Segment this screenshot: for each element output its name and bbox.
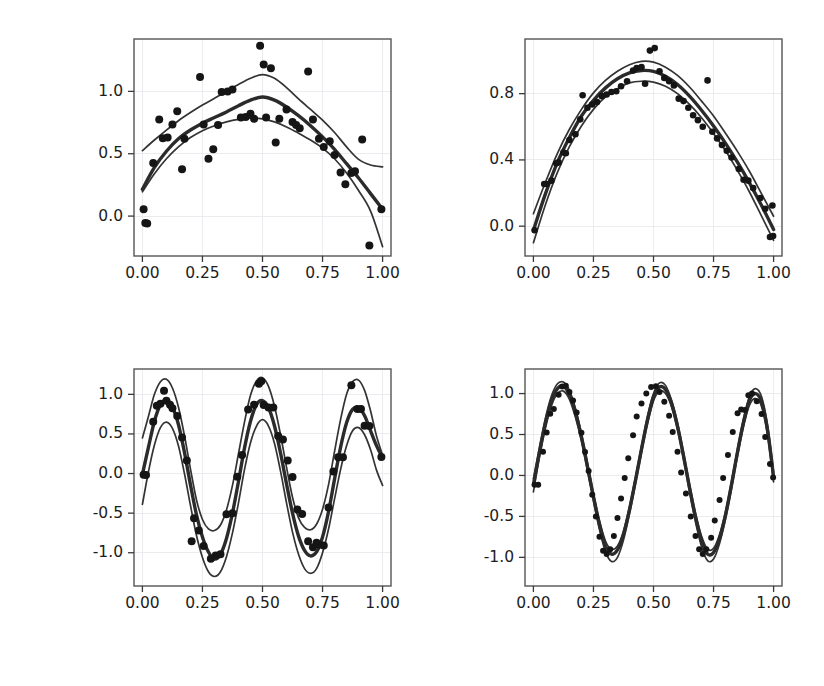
data-point [284,456,292,464]
x-tick-label: 0.50 [636,594,671,612]
data-point [551,406,557,412]
data-point [351,167,359,175]
x-tick-label: 0.75 [696,594,731,612]
data-point [228,86,236,94]
data-point [728,154,735,161]
x-tick-label: 0.75 [305,594,340,612]
data-point [572,131,579,138]
data-point [566,389,572,395]
data-point [770,475,776,481]
plot-frame [134,39,391,256]
data-point [160,387,168,395]
data-point [688,513,694,519]
data-point [596,534,602,540]
data-point [693,533,699,539]
y-tick-label: -1.0 [93,543,123,561]
data-point [708,535,714,541]
data-point [200,120,208,128]
data-point [759,411,765,417]
data-point [298,510,306,518]
data-point [653,383,659,389]
data-point [272,139,280,147]
data-point [638,400,644,406]
data-point [754,398,760,404]
data-point [357,405,365,413]
data-point [209,145,217,153]
data-point [548,177,555,184]
data-point [675,449,681,455]
data-point [326,137,334,145]
data-point [269,403,277,411]
data-point [214,121,222,129]
data-point [735,166,742,173]
x-tick-label: 0.75 [696,264,731,282]
data-point [695,117,702,124]
y-tick-label: 1.0 [489,384,514,402]
data-point [700,551,706,557]
data-point [725,452,731,458]
data-point [556,392,562,398]
x-tick-label: 0.00 [125,594,160,612]
y-tick-label: 0.4 [489,150,514,168]
data-point [577,116,584,123]
data-point [173,412,181,420]
data-point [714,135,721,142]
chart-panel-bottom-left: 0.000.250.500.751.00-1.0-0.50.00.51.0 [76,363,397,622]
data-point [155,115,163,123]
data-point [757,195,764,202]
data-point [196,73,204,81]
regression-panels-figure: 0.000.250.500.751.000.00.51.00.000.250.5… [0,0,824,686]
data-point [618,495,624,501]
x-tick-label: 0.00 [516,594,551,612]
x-tick-label: 0.00 [125,264,160,282]
data-point [704,77,711,84]
data-point [651,45,658,52]
data-point [320,143,328,151]
data-point [750,185,757,192]
data-point [365,241,373,249]
data-point [140,205,148,213]
y-tick-label: 0.8 [489,84,514,102]
x-tick-label: 0.50 [245,264,280,282]
data-point [604,551,610,557]
data-point [149,418,157,426]
y-tick-label: 0.5 [98,144,123,162]
y-tick-label: 0.0 [489,217,514,235]
x-tick-label: 0.00 [516,264,551,282]
data-point [683,490,689,496]
data-point [257,377,265,385]
data-point [709,128,716,135]
data-point [262,114,270,122]
data-point [762,434,768,440]
data-point [250,115,258,123]
x-tick-label: 0.25 [576,264,611,282]
data-point [142,471,150,479]
data-point [238,451,246,459]
data-point [643,391,649,397]
chart-panel-top-right: 0.000.250.500.751.000.00.40.8 [467,33,788,292]
data-point [195,527,203,535]
data-point [723,148,730,155]
data-point [339,453,347,461]
data-point [164,134,172,142]
data-point [670,429,676,435]
data-point [377,453,385,461]
data-point [578,430,584,436]
data-point [570,398,576,404]
data-point [180,135,188,143]
x-tick-label: 0.50 [636,264,671,282]
data-point [671,82,678,89]
data-point [611,533,617,539]
data-point [309,115,317,123]
data-point [730,429,736,435]
x-tick-label: 0.75 [305,264,340,282]
data-point [696,546,702,552]
data-point [233,473,241,481]
data-point [535,482,541,488]
data-point [618,83,625,90]
data-point [377,205,385,213]
data-point [275,115,283,123]
x-tick-label: 0.25 [576,594,611,612]
x-tick-label: 0.50 [245,594,280,612]
data-point [586,468,592,474]
